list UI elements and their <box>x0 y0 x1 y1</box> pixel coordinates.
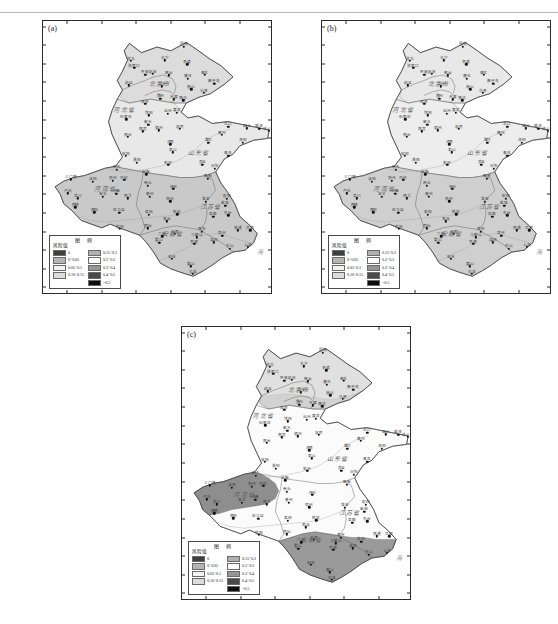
legend-item: 0~0.05 <box>332 257 363 263</box>
y-tick-mark <box>268 119 271 120</box>
legend-item: >0.5 <box>88 280 117 286</box>
station-label: 秦皇岛 <box>347 384 359 389</box>
y-tick-mark <box>547 287 550 288</box>
station-label: 南京 <box>337 532 345 537</box>
station-label: 洛阳 <box>368 176 376 181</box>
station-label: 唐山 <box>187 83 195 88</box>
legend-label: 0.4~0.5 <box>242 579 254 583</box>
x-tick-mark <box>346 21 347 24</box>
y-tick-mark <box>547 101 550 102</box>
y-tick-mark <box>43 45 46 46</box>
legend-label: 0.4~0.5 <box>103 273 115 277</box>
y-tick-mark <box>322 138 325 139</box>
y-tick-mark <box>407 556 410 557</box>
x-tick-mark <box>136 21 137 24</box>
legend-swatch <box>227 578 240 584</box>
station-label: 塘沽 <box>458 94 466 99</box>
station-label: 溧阳 <box>349 542 357 547</box>
province-label: 江苏省 <box>339 508 361 517</box>
y-tick-mark <box>268 250 271 251</box>
station-label: 屯溪 <box>328 574 336 579</box>
y-tick-mark <box>547 63 550 64</box>
y-tick-mark <box>182 481 185 482</box>
station-label: 西峡 <box>211 507 219 512</box>
y-tick-mark <box>268 175 271 176</box>
station-label: 石家庄 <box>120 113 132 118</box>
station-label: 日照 <box>490 163 498 168</box>
x-tick-mark <box>484 290 485 293</box>
province-label: 山东省 <box>467 148 489 157</box>
station-label: 赣榆 <box>483 173 491 178</box>
legend-item: 0.2~0.3 <box>88 257 117 263</box>
station-label: 东台 <box>503 209 511 214</box>
station-label: 烟台 <box>522 123 530 128</box>
legend-swatch <box>332 250 345 256</box>
station-label: 德州 <box>434 124 442 129</box>
legend-column: 0.15~0.20.2~0.30.3~0.40.4~0.5>0.5 <box>367 250 396 286</box>
station-label: 新乡 <box>392 164 400 169</box>
legend-label: >0.5 <box>242 587 249 591</box>
province-label: 北京市 <box>288 385 310 394</box>
y-tick-mark <box>547 250 550 251</box>
station-label: 东台 <box>224 209 232 214</box>
station-label: 遵化 <box>323 379 331 384</box>
legend-swatch <box>53 250 66 256</box>
y-tick-mark <box>268 26 271 27</box>
station-label: 南京 <box>198 226 206 231</box>
legend-label: 0.10~0.15 <box>207 579 223 583</box>
x-tick-mark <box>344 327 345 330</box>
x-tick-mark <box>67 290 68 293</box>
legend-swatch <box>332 272 345 278</box>
station-label: 蔚县 <box>264 385 272 390</box>
station-label: 开封 <box>399 174 407 179</box>
station-label: 济南 <box>167 138 175 143</box>
station-label: 盐城 <box>221 200 229 205</box>
legend-item: 0.4~0.5 <box>88 272 117 278</box>
station-label: 石家庄 <box>259 419 271 424</box>
sea-label: 海 <box>257 247 263 256</box>
station-label: 莒县 <box>478 159 486 164</box>
legend-item: 0.15~0.2 <box>88 250 117 256</box>
station-label: 张北 <box>266 361 274 366</box>
legend-label: 0.3~0.4 <box>103 266 115 270</box>
y-tick-mark <box>322 157 325 158</box>
station-label: 秦皇岛 <box>487 78 499 83</box>
station-label: 寿县 <box>442 215 450 220</box>
legend-subtitle: 风险值 <box>192 550 256 555</box>
station-label: 保定 <box>420 98 428 103</box>
station-label: 高邮 <box>209 211 217 216</box>
y-tick-mark <box>182 351 185 352</box>
station-label: 海阳 <box>239 137 247 142</box>
station-label: 日照 <box>211 163 219 168</box>
station-label: 海阳 <box>378 443 386 448</box>
station-label: 徐州 <box>449 183 457 188</box>
legend-item: 0.3~0.4 <box>227 571 256 577</box>
station-label: 蚌埠 <box>312 514 320 519</box>
station-label: 黄山 <box>326 566 334 571</box>
station-label: 保定 <box>141 98 149 103</box>
station-label: 张家口 <box>128 62 140 67</box>
y-tick-mark <box>43 63 46 64</box>
station-label: 霸州 <box>157 93 165 98</box>
station-label: 沧州 <box>164 108 172 113</box>
province-label: 河北省 <box>252 411 274 420</box>
station-label: 延庆 <box>288 374 296 379</box>
legend-swatch <box>88 257 101 263</box>
station-label: 东台 <box>363 515 371 520</box>
station-label: 徐州 <box>309 489 317 494</box>
station-label: 兖州 <box>303 465 311 470</box>
station-label: 怀来 <box>420 69 428 74</box>
x-tick-mark <box>449 290 450 293</box>
station-label: 黄山 <box>187 260 195 265</box>
province-label: 北京市 <box>149 79 171 88</box>
station-label: 赣榆 <box>204 173 212 178</box>
y-tick-mark <box>407 481 410 482</box>
station-label: 蚌埠 <box>452 208 460 213</box>
station-label: 定陶 <box>281 474 289 479</box>
station-label: 南宫 <box>278 432 286 437</box>
station-label: 常州 <box>497 230 505 235</box>
station-label: 天津 <box>309 399 317 404</box>
legend-item: 0.10~0.15 <box>192 578 223 584</box>
x-tick-mark <box>206 596 207 599</box>
station-label: 龙口 <box>503 121 511 126</box>
